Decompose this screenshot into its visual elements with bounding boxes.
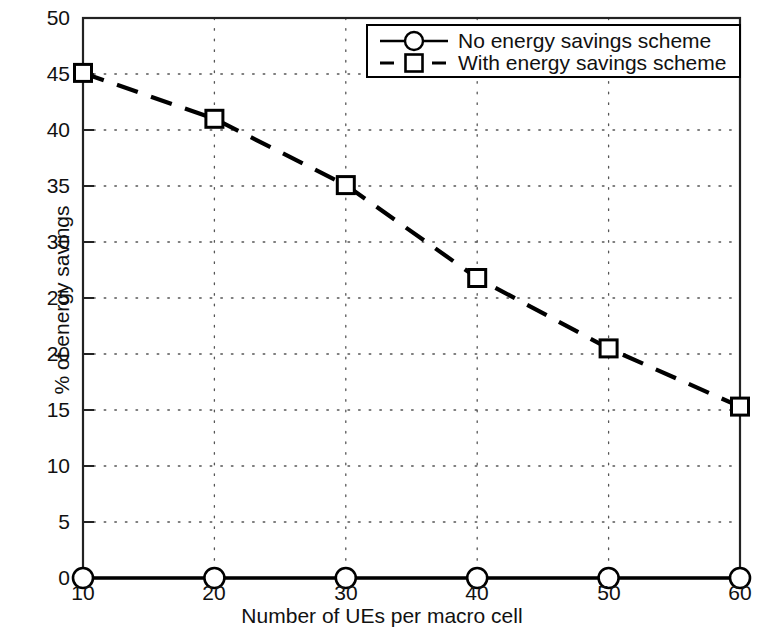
chart-figure: 50 45 40 35 30 25 20 15 10 5 0 10 20 30 … — [0, 0, 764, 642]
y-tick-label-5: 5 — [8, 510, 70, 534]
y-axis-title: % of energy savings — [50, 150, 74, 450]
x-tick-label-30: 30 — [316, 581, 376, 605]
x-tick-label-10: 10 — [53, 581, 113, 605]
y-tick-label-40: 40 — [8, 118, 70, 142]
y-tick-label-10: 10 — [8, 454, 70, 478]
x-axis-title: Number of UEs per macro cell — [0, 604, 764, 628]
legend-label-with-scheme: With energy savings scheme — [458, 51, 726, 75]
y-tick-label-45: 45 — [8, 62, 70, 86]
x-tick-label-20: 20 — [184, 581, 244, 605]
plot-canvas — [0, 0, 764, 642]
x-tick-label-60: 60 — [710, 581, 764, 605]
x-tick-label-50: 50 — [579, 581, 639, 605]
x-tick-label-40: 40 — [447, 581, 507, 605]
y-tick-label-50: 50 — [8, 6, 70, 30]
legend-label-no-scheme: No energy savings scheme — [458, 29, 711, 53]
